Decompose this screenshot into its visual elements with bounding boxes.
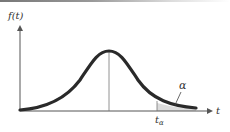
critical-value-label: tα bbox=[155, 114, 164, 127]
x-axis-label: t bbox=[216, 105, 221, 116]
tail-area-label: α bbox=[179, 79, 187, 92]
t-distribution-diagram: f(t) t tα α bbox=[0, 0, 230, 132]
density-curve bbox=[20, 51, 196, 110]
y-axis-label: f(t) bbox=[7, 10, 24, 21]
alpha-pointer bbox=[175, 92, 181, 105]
